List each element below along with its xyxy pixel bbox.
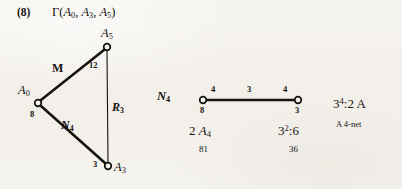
net-edge-weight-left: 4	[211, 85, 215, 94]
net-order-left: 81	[199, 145, 208, 154]
net-edge-weight-right: 4	[283, 85, 287, 94]
net-vertex-weight-right: 3	[295, 106, 299, 115]
figure-page: (8) Γ(A0, A3, A5) A5 A0 A3 8 3 M 12 N4 R…	[0, 0, 402, 189]
four-net-graph	[0, 0, 402, 189]
net-vertex-right[interactable]	[295, 97, 302, 104]
net-group-label-right: 32:6	[278, 124, 299, 137]
right-caption: A 4-net	[336, 120, 361, 129]
net-edge-weight-middle: 3	[247, 85, 251, 94]
net-vertex-weight-left: 8	[200, 106, 204, 115]
net-order-right: 36	[289, 145, 298, 154]
right-group-label: 34:2 A	[333, 97, 366, 110]
net-title-label: N4	[157, 90, 170, 105]
net-vertex-left[interactable]	[200, 97, 207, 104]
net-group-label-left: 2 A4	[189, 124, 211, 139]
